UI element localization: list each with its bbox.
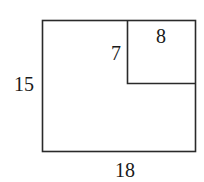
figure-canvas: 8 7 15 18 [0,0,204,182]
outer-height-label: 15 [14,73,34,95]
outer-rectangle [43,21,196,152]
inner-height-label: 7 [111,42,121,64]
inner-width-label: 8 [156,25,166,47]
outer-width-label: 18 [115,159,135,181]
